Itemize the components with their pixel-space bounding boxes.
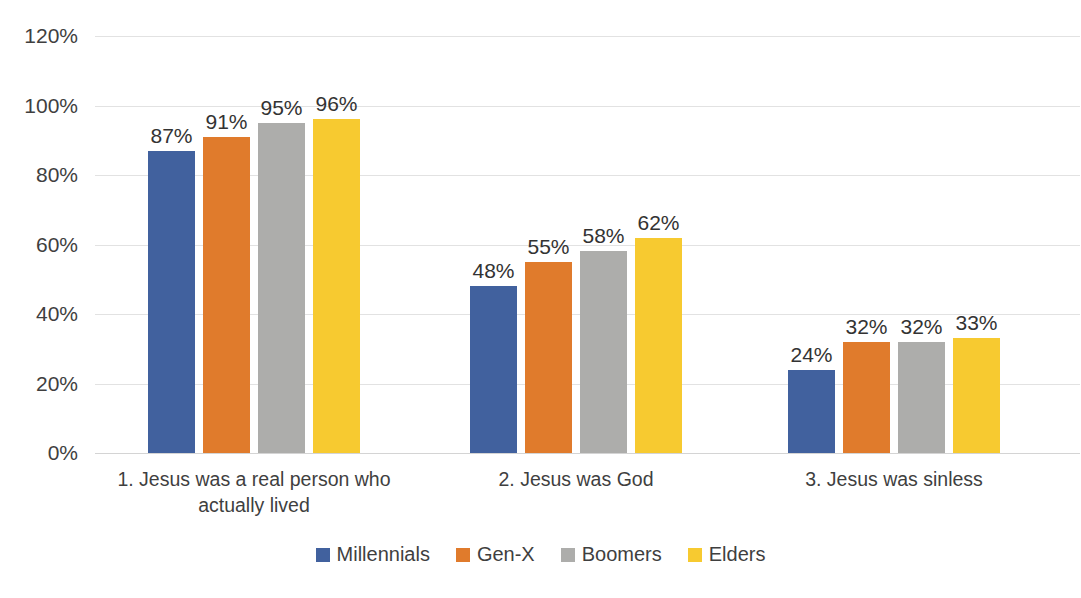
y-axis-tick-label: 100% (24, 94, 78, 118)
bar-fill (898, 342, 945, 453)
legend-swatch-icon (456, 548, 470, 562)
legend: MillennialsGen-XBoomersElders (0, 543, 1081, 566)
bar-fill (788, 370, 835, 453)
legend-swatch-icon (688, 548, 702, 562)
bar-boomers[interactable]: 58% (580, 251, 627, 453)
legend-item-elders[interactable]: Elders (688, 543, 766, 566)
x-axis-label-line: actually lived (79, 492, 429, 518)
bar-group: 87%91%95%96% (148, 36, 360, 453)
bar-fill (953, 338, 1000, 453)
bar-group: 48%55%58%62% (470, 36, 682, 453)
y-axis: 120%100%80%60%40%20%0% (0, 0, 86, 598)
bar-millennials[interactable]: 87% (148, 151, 195, 453)
legend-swatch-icon (316, 548, 330, 562)
bar-elders[interactable]: 33% (953, 338, 1000, 453)
bar-value-label: 32% (900, 316, 942, 337)
legend-label: Elders (709, 543, 766, 566)
bar-value-label: 32% (845, 316, 887, 337)
legend-item-gen-x[interactable]: Gen-X (456, 543, 535, 566)
bar-boomers[interactable]: 95% (258, 123, 305, 453)
bar-fill (148, 151, 195, 453)
bar-value-label: 87% (150, 125, 192, 146)
bar-value-label: 96% (315, 93, 357, 114)
bar-fill (203, 137, 250, 453)
bar-value-label: 48% (472, 260, 514, 281)
bar-elders[interactable]: 96% (313, 119, 360, 453)
bar-value-label: 95% (260, 97, 302, 118)
gridline (95, 453, 1080, 454)
legend-label: Gen-X (477, 543, 535, 566)
bar-elders[interactable]: 62% (635, 238, 682, 453)
legend-item-boomers[interactable]: Boomers (561, 543, 662, 566)
bar-value-label: 62% (637, 212, 679, 233)
bar-group: 24%32%32%33% (788, 36, 1000, 453)
bar-millennials[interactable]: 48% (470, 286, 517, 453)
legend-item-millennials[interactable]: Millennials (316, 543, 430, 566)
bar-gen-x[interactable]: 91% (203, 137, 250, 453)
x-axis-label: 2. Jesus was God (401, 466, 751, 492)
bar-gen-x[interactable]: 55% (525, 262, 572, 453)
bar-millennials[interactable]: 24% (788, 370, 835, 453)
bar-gen-x[interactable]: 32% (843, 342, 890, 453)
y-axis-tick-label: 0% (48, 441, 78, 465)
legend-label: Millennials (337, 543, 430, 566)
y-axis-tick-label: 40% (36, 302, 78, 326)
legend-swatch-icon (561, 548, 575, 562)
y-axis-tick-label: 80% (36, 163, 78, 187)
bar-fill (635, 238, 682, 453)
legend-label: Boomers (582, 543, 662, 566)
bar-fill (258, 123, 305, 453)
bar-fill (470, 286, 517, 453)
y-axis-tick-label: 60% (36, 233, 78, 257)
bar-value-label: 58% (582, 225, 624, 246)
bar-boomers[interactable]: 32% (898, 342, 945, 453)
bar-fill (843, 342, 890, 453)
bar-fill (525, 262, 572, 453)
x-axis-label: 3. Jesus was sinless (719, 466, 1069, 492)
x-axis-label-line: 2. Jesus was God (401, 466, 751, 492)
x-axis-label: 1. Jesus was a real person whoactually l… (79, 466, 429, 519)
y-axis-tick-label: 20% (36, 372, 78, 396)
bar-fill (313, 119, 360, 453)
x-axis-label-line: 1. Jesus was a real person who (79, 466, 429, 492)
plot-area: 87%91%95%96%48%55%58%62%24%32%32%33% (95, 36, 1080, 453)
x-axis-label-line: 3. Jesus was sinless (719, 466, 1069, 492)
bar-fill (580, 251, 627, 453)
bar-value-label: 91% (205, 111, 247, 132)
bar-chart: 87%91%95%96%48%55%58%62%24%32%32%33% 120… (0, 0, 1081, 598)
bar-value-label: 33% (955, 312, 997, 333)
y-axis-tick-label: 120% (24, 24, 78, 48)
bar-value-label: 24% (790, 344, 832, 365)
bar-value-label: 55% (527, 236, 569, 257)
